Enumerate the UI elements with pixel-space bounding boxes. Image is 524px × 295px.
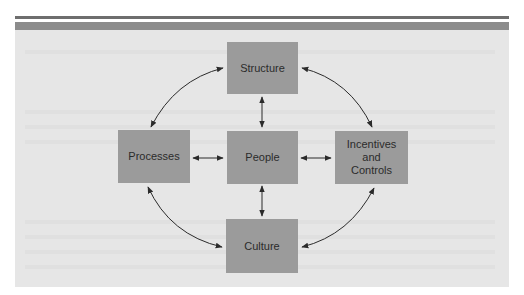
node-incentives-label-line2: and	[362, 151, 380, 164]
node-culture-label: Culture	[244, 240, 279, 253]
arrow-structure-incentives	[302, 68, 372, 127]
node-structure: Structure	[227, 42, 298, 94]
node-people-label: People	[245, 151, 279, 164]
node-processes: Processes	[118, 130, 190, 183]
node-people: People	[227, 131, 298, 184]
arrow-processes-structure	[151, 68, 223, 127]
node-processes-label: Processes	[128, 150, 179, 163]
node-culture: Culture	[226, 219, 298, 273]
node-incentives-controls: Incentives and Controls	[335, 131, 408, 184]
arrow-processes-culture	[148, 187, 222, 247]
node-structure-label: Structure	[240, 62, 285, 75]
node-incentives-label-line1: Incentives	[347, 138, 397, 151]
arrow-culture-incentives	[302, 188, 374, 247]
node-incentives-label-line3: Controls	[351, 164, 392, 177]
